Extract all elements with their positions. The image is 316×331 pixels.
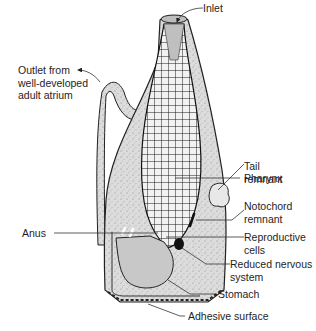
- label-reduced-nervous-system: Reduced nervous system: [230, 258, 312, 283]
- label-notochord-remnant: Notochord remnant: [244, 200, 292, 225]
- label-outlet: Outlet from well-developed adult atrium: [18, 64, 88, 102]
- label-adhesive-surface: Adhesive surface: [188, 310, 269, 323]
- tail-remnant: [209, 183, 229, 207]
- inlet-opening: [161, 15, 187, 23]
- label-anus: Anus: [22, 227, 46, 240]
- label-tail-remnant: Tail remnant: [244, 160, 283, 185]
- label-inlet: Inlet: [203, 2, 223, 15]
- label-stomach: Stomach: [218, 288, 259, 301]
- label-reproductive-cells: Reproductive cells: [244, 231, 306, 256]
